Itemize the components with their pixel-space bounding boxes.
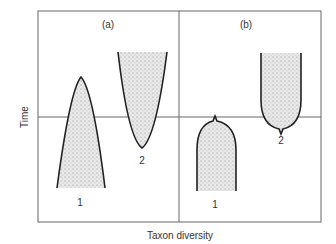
panel-a-shape-2-label: 2 bbox=[139, 156, 145, 166]
x-axis-label: Taxon diversity bbox=[147, 231, 213, 241]
panel-b-shape-1-label: 1 bbox=[212, 200, 218, 210]
panel-a-shape-1 bbox=[57, 77, 105, 188]
panel-a-shape-1-label: 1 bbox=[77, 198, 83, 208]
panel-a-label: (a) bbox=[102, 20, 114, 30]
diagram-canvas bbox=[0, 0, 336, 244]
panel-b-shape-2-label: 2 bbox=[278, 136, 284, 146]
y-axis-label: Time bbox=[19, 106, 30, 128]
panel-b-label: (b) bbox=[240, 20, 252, 30]
panel-a-shape-2 bbox=[118, 52, 167, 148]
panel-b-shape-1 bbox=[197, 116, 236, 191]
panel-b-shape-2 bbox=[261, 53, 301, 134]
